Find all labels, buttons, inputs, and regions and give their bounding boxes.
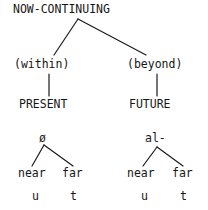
branch-root-to-within bbox=[54, 19, 78, 55]
node-future: FUTURE bbox=[129, 99, 171, 111]
terminal-right-u: u bbox=[141, 191, 148, 203]
node-right-near: near bbox=[127, 168, 155, 180]
node-present: PRESENT bbox=[19, 99, 67, 111]
branch-al-to-near bbox=[143, 147, 157, 166]
branch-root-to-beyond bbox=[78, 19, 146, 55]
terminal-left-u: u bbox=[32, 191, 39, 203]
node-right-far: far bbox=[172, 168, 193, 180]
tree-diagram: NOW-CONTINUING (within) (beyond) PRESENT… bbox=[0, 0, 208, 210]
node-within: (within) bbox=[14, 59, 69, 71]
node-beyond: (beyond) bbox=[127, 59, 182, 71]
node-null-morpheme: ø bbox=[39, 133, 46, 145]
node-left-far: far bbox=[62, 168, 83, 180]
terminal-right-t: t bbox=[180, 191, 187, 203]
branch-null-to-far bbox=[44, 145, 73, 166]
node-now-continuing: NOW-CONTINUING bbox=[13, 4, 110, 16]
node-al-prefix: al- bbox=[145, 133, 166, 145]
terminal-left-t: t bbox=[70, 191, 77, 203]
node-left-near: near bbox=[18, 168, 46, 180]
branch-null-to-near bbox=[32, 145, 44, 166]
branch-al-to-far bbox=[157, 147, 183, 166]
